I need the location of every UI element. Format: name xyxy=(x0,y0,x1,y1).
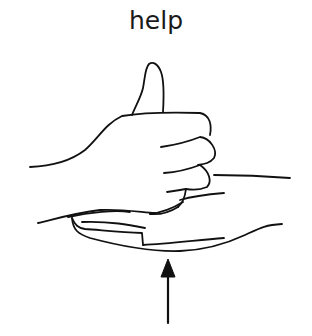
help-sign-illustration xyxy=(0,0,312,336)
thumbs-up-fist-icon xyxy=(30,63,290,214)
arrow-up-icon xyxy=(161,259,175,323)
open-palm-icon xyxy=(38,193,282,251)
